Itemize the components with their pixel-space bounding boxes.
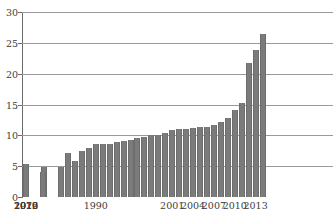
y-axis-tick: [18, 166, 22, 167]
bar: [86, 148, 92, 197]
gridline: [22, 105, 333, 106]
bar: [169, 130, 175, 197]
y-axis-tick: [18, 135, 22, 136]
gridline: [22, 12, 333, 13]
bar: [141, 137, 147, 197]
gridline: [22, 43, 333, 44]
y-axis-label: 15: [0, 101, 18, 111]
bar: [93, 144, 99, 197]
bar: [232, 110, 238, 197]
bar: [211, 125, 217, 197]
bar: [162, 133, 168, 197]
plot-area: [22, 12, 333, 197]
y-axis-tick: [18, 43, 22, 44]
bar: [225, 118, 231, 197]
x-axis-label: 2013: [244, 200, 268, 212]
bar: [134, 138, 140, 197]
bar: [114, 142, 120, 198]
bar: [260, 34, 266, 197]
bar: [183, 129, 189, 197]
bar: [40, 172, 46, 197]
x-axis-tick-labels: 1970199020012004200720102013201620192022: [0, 200, 335, 218]
y-axis-label: 10: [0, 131, 18, 141]
bar: [246, 63, 252, 197]
bar: [58, 167, 64, 197]
y-axis-label: 30: [0, 8, 18, 18]
bar: [155, 135, 161, 197]
bar: [197, 127, 203, 197]
bar: [239, 103, 245, 197]
bar: [72, 161, 78, 197]
y-axis-tick: [18, 197, 22, 198]
bar: [128, 140, 134, 197]
y-axis-tick: [18, 12, 22, 13]
bar: [100, 144, 106, 197]
bar: [121, 141, 127, 197]
bar: [79, 151, 85, 197]
chart-title-strip: [0, 0, 335, 3]
bar: [218, 122, 224, 197]
x-axis-label: 1990: [84, 200, 108, 212]
bar: [204, 127, 210, 197]
bar: [190, 128, 196, 197]
bar: [65, 153, 71, 197]
y-axis-label: 20: [0, 70, 18, 80]
y-axis-tick: [18, 105, 22, 106]
gridline: [22, 74, 333, 75]
bar-chart: 1970199020012004200720102013201620192022…: [0, 0, 335, 218]
y-axis-tick: [18, 74, 22, 75]
y-axis-label: 0: [0, 193, 18, 203]
bar: [253, 50, 259, 197]
bar: [176, 129, 182, 197]
bar: [148, 135, 154, 197]
y-axis-label: 25: [0, 39, 18, 49]
bar: [23, 164, 29, 197]
bar: [107, 144, 113, 197]
y-axis-label: 5: [0, 162, 18, 172]
